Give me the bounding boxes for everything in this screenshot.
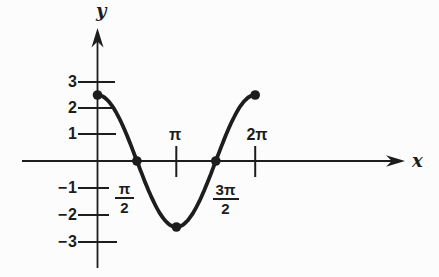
y-tick-label-neg1: −1 (46, 179, 78, 197)
3pi-over-2-numerator: 3π (216, 183, 236, 197)
data-point-dot (211, 156, 221, 166)
x-tick-label-3pi-over-2: 3π 2 (209, 183, 242, 216)
y-tick-label-neg2: −2 (46, 206, 78, 224)
figure-canvas: y x 3 2 1 −1 −2 −3 π 2π π 2 3π 2 (0, 0, 439, 277)
x-tick-label-pi-over-2: π 2 (111, 182, 138, 215)
y-tick-label-1: 1 (46, 125, 78, 143)
x-tick-label-pi: π (162, 126, 188, 144)
data-point-dot (172, 222, 182, 232)
pi-over-2-denominator: 2 (120, 201, 128, 215)
data-point-dot (250, 90, 260, 100)
y-tick-label-3: 3 (46, 73, 78, 91)
data-point-dot (132, 156, 142, 166)
y-tick-label-neg3: −3 (46, 233, 78, 251)
y-axis-label: y (96, 1, 106, 21)
3pi-over-2-denominator: 2 (221, 202, 229, 216)
x-tick-label-2pi: 2π (242, 126, 272, 144)
pi-over-2-numerator: π (119, 182, 130, 196)
x-axis-label: x (412, 151, 423, 171)
data-point-dot (93, 90, 103, 100)
y-tick-label-2: 2 (46, 99, 78, 117)
